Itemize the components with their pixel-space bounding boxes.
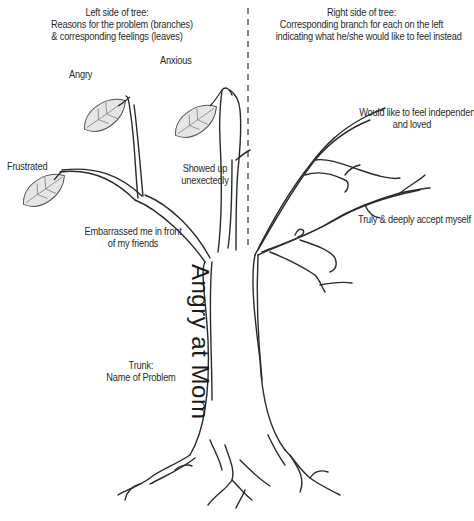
leaf-label-frustrated: Frustrated xyxy=(7,160,47,172)
left-heading-line1: Left side of tree: xyxy=(51,6,183,18)
branch-label-accept: Truly & deeply accept myself xyxy=(358,213,471,225)
leaf-anxious xyxy=(169,97,224,145)
showed-up-line2: unexectedly xyxy=(174,174,236,186)
leaf-label-angry: Angry xyxy=(69,68,92,80)
left-side-heading: Left side of tree: Reasons for the probl… xyxy=(51,6,183,42)
trunk-caption: Trunk: Name of Problem xyxy=(101,359,180,383)
embarrassed-line1: Embarrassed me in front xyxy=(85,225,182,237)
trunk-caption-line2: Name of Problem xyxy=(101,371,180,383)
showed-up-line1: Showed up xyxy=(174,162,236,174)
right-branch-accept xyxy=(258,175,430,292)
independent-line2: and loved xyxy=(359,118,465,130)
embarrassed-line2: of my friends xyxy=(85,237,182,249)
branch-label-embarrassed: Embarrassed me in front of my friends xyxy=(85,225,182,249)
right-heading-line2: Corresponding branch for each on the lef… xyxy=(276,18,448,30)
leaf-frustrated xyxy=(17,166,72,214)
branch-label-independent: Would like to feel independent and loved xyxy=(359,106,465,130)
right-branch-independent xyxy=(255,108,400,255)
left-heading-line3: & corresponding feelings (leaves) xyxy=(51,30,183,42)
leaf-angry xyxy=(78,91,133,139)
independent-line1: Would like to feel independent xyxy=(359,106,465,118)
trunk-label: Angry at Mom xyxy=(186,264,214,419)
right-heading-line3: indicating what he/she would like to fee… xyxy=(276,30,448,42)
roots xyxy=(118,435,340,508)
right-side-heading: Right side of tree: Corresponding branch… xyxy=(276,6,448,42)
trunk-caption-line1: Trunk: xyxy=(101,359,180,371)
left-heading-line2: Reasons for the problem (branches) xyxy=(51,18,183,30)
branch-label-showed-up: Showed up unexectedly xyxy=(174,162,236,186)
right-heading-line1: Right side of tree: xyxy=(276,6,448,18)
leaf-label-anxious: Anxious xyxy=(160,54,192,66)
